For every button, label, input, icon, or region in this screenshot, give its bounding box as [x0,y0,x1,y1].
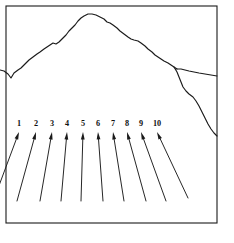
arrow-shaft-2 [17,137,35,201]
arrow-number-label-3: 3 [50,119,54,128]
arrow-head-7 [112,132,116,140]
arrow-label-layer: 12345678910 [17,119,161,128]
arrow-number-label-1: 1 [17,119,21,128]
arrow-head-10 [157,132,162,140]
arrow-shaft-4 [61,137,67,201]
arrow-2 [17,132,36,201]
figure-root: Mountain ridge profile with numbered sig… [0,0,234,243]
arrow-4 [61,132,68,201]
arrow-number-label-7: 7 [111,119,115,128]
arrow-8 [127,132,146,201]
arrow-head-3 [49,132,53,140]
arrow-shaft-6 [98,137,103,201]
arrow-number-label-2: 2 [34,119,38,128]
arrow-number-label-8: 8 [125,119,129,128]
arrow-shaft-10 [159,137,188,198]
arrow-layer [0,132,188,201]
arrow-head-1 [15,132,19,140]
figure-border [6,6,217,223]
arrow-number-label-5: 5 [81,119,85,128]
arrow-shaft-5 [81,137,83,201]
arrow-shaft-9 [143,137,166,201]
arrow-3 [40,132,53,201]
arrow-head-6 [97,132,101,140]
arrow-shaft-8 [128,137,146,201]
arrow-head-8 [127,132,131,140]
arrow-1 [0,132,19,199]
arrow-head-5 [81,132,85,140]
arrow-head-2 [32,132,36,140]
arrow-7 [112,132,124,201]
arrow-head-9 [141,132,145,140]
arrow-5 [81,132,85,201]
ridge-branch-descending [174,67,217,136]
ridge-branch-right [177,69,217,76]
arrow-number-label-4: 4 [65,119,69,128]
arrow-number-label-10: 10 [153,119,161,128]
arrow-6 [97,132,103,201]
arrow-shaft-3 [40,137,51,201]
arrow-shaft-1 [0,137,17,199]
mountain-ridge-diagram: Mountain ridge profile with numbered sig… [0,0,234,243]
ridge-main-skyline [0,14,177,78]
arrow-head-4 [64,132,68,140]
arrow-shaft-7 [114,137,124,201]
arrow-number-label-9: 9 [139,119,143,128]
arrow-number-label-6: 6 [96,119,100,128]
